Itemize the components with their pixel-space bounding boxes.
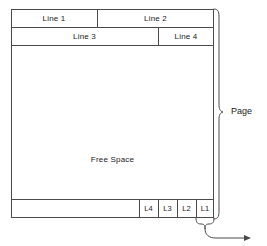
cell-l4-label: L4 bbox=[144, 204, 153, 213]
cell-line-3-label: Line 3 bbox=[73, 32, 96, 41]
cell-line-2-label: Line 2 bbox=[144, 14, 167, 23]
free-space-region: Free Space bbox=[11, 45, 214, 199]
cell-line-4: Line 4 bbox=[158, 27, 214, 45]
page-layout-diagram: Line 1 Line 2 Line 3 Line 4 Free Space L… bbox=[0, 0, 267, 246]
cell-l3: L3 bbox=[158, 199, 177, 218]
cell-line-2: Line 2 bbox=[97, 9, 214, 27]
l1-callout-arrow-icon bbox=[190, 214, 267, 246]
cell-l4: L4 bbox=[139, 199, 158, 218]
cell-l1-label: L1 bbox=[201, 204, 210, 213]
cell-line-4-label: Line 4 bbox=[175, 32, 198, 41]
cell-l2-label: L2 bbox=[182, 204, 191, 213]
cell-line-1-label: Line 1 bbox=[43, 14, 66, 23]
free-space-label: Free Space bbox=[91, 155, 134, 164]
cell-line-1: Line 1 bbox=[11, 9, 97, 27]
cell-l3-label: L3 bbox=[163, 204, 172, 213]
cell-line-3: Line 3 bbox=[11, 27, 158, 45]
page-brace-label: Page bbox=[231, 106, 252, 116]
